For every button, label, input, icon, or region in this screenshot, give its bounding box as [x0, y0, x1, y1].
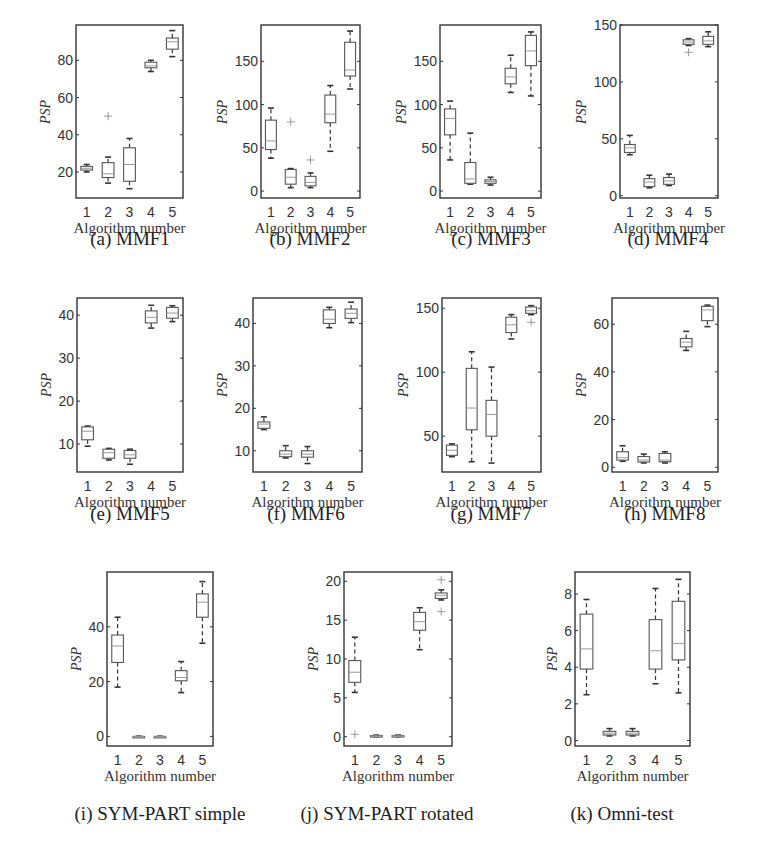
subplot-h: 020406012345	[593, 298, 718, 494]
xtick-label: 3	[156, 752, 164, 768]
xtick-label: 1	[446, 204, 454, 220]
box-algorithm-2	[465, 133, 476, 184]
xtick-label: 4	[147, 204, 155, 220]
xtick-label: 4	[507, 204, 515, 220]
subplot-a: 2040608012345	[57, 25, 183, 220]
box-algorithm-2	[638, 454, 650, 463]
y-axis-label: PSP	[38, 99, 54, 123]
xtick-label: 4	[325, 478, 333, 494]
ytick-label: 100	[416, 364, 440, 380]
y-axis-label: PSP	[39, 373, 55, 397]
box-algorithm-4	[683, 39, 694, 57]
box-algorithm-3	[154, 736, 166, 738]
xtick-label: 2	[287, 204, 295, 220]
xtick-label: 5	[437, 752, 445, 768]
xtick-label: 2	[640, 478, 648, 494]
subplot-k: 0246812345	[564, 572, 690, 768]
iqr-box	[82, 427, 94, 440]
xtick-label: 2	[468, 478, 476, 494]
iqr-box	[445, 109, 456, 135]
xtick-label: 4	[652, 752, 660, 768]
xtick-label: 2	[606, 752, 614, 768]
box-algorithm-4	[325, 86, 336, 152]
xtick-label: 3	[126, 478, 134, 494]
box-algorithm-3	[302, 447, 314, 464]
ytick-label: 40	[593, 364, 609, 380]
y-axis-label: PSP	[574, 99, 590, 123]
box-algorithm-5	[197, 582, 209, 644]
iqr-box	[145, 62, 157, 68]
iqr-box	[265, 120, 276, 149]
subplot-caption: (d) MMF4	[628, 228, 709, 250]
ytick-label: 60	[593, 316, 609, 332]
box-algorithm-4	[506, 315, 517, 339]
iqr-box	[325, 95, 336, 123]
xtick-label: 3	[665, 204, 673, 220]
box-algorithm-4	[414, 608, 426, 650]
subplot-caption: (c) MMF3	[451, 228, 531, 250]
xtick-label: 5	[704, 204, 712, 220]
ytick-label: 10	[58, 436, 74, 452]
box-algorithm-3	[392, 735, 404, 737]
ytick-label: 10	[234, 443, 250, 459]
xtick-label: 2	[135, 752, 143, 768]
subplot-caption: (j) SYM-PART rotated	[300, 803, 473, 825]
xtick-label: 5	[169, 478, 177, 494]
box-algorithm-2	[603, 729, 616, 736]
iqr-box	[323, 310, 335, 324]
ytick-label: 15	[325, 612, 341, 628]
xtick-label: 5	[168, 204, 176, 220]
box-algorithm-3	[664, 174, 675, 185]
ytick-label: 150	[416, 300, 440, 316]
box-algorithm-3	[305, 156, 316, 188]
ytick-label: 5	[333, 690, 341, 706]
box-algorithm-1	[580, 599, 593, 694]
iqr-box	[112, 635, 124, 662]
xtick-label: 2	[282, 478, 290, 494]
ytick-label: 60	[57, 90, 73, 106]
ytick-label: 50	[421, 140, 437, 156]
ytick-label: 150	[414, 53, 438, 69]
xtick-label: 4	[685, 204, 693, 220]
ytick-label: 0	[333, 729, 341, 745]
iqr-box	[465, 163, 476, 184]
ytick-label: 50	[242, 140, 258, 156]
ytick-label: 8	[564, 586, 572, 602]
x-axis-label: Algorithm number	[342, 768, 454, 785]
ytick-label: 6	[564, 623, 572, 639]
xtick-label: 1	[260, 478, 268, 494]
subplot-caption: (k) Omni-test	[571, 803, 674, 825]
xtick-label: 5	[347, 478, 355, 494]
box-algorithm-3	[124, 138, 136, 188]
boxplot-figure: 2040608012345050100150123450501001501234…	[0, 0, 758, 857]
box-algorithm-5	[526, 306, 537, 327]
ytick-label: 20	[57, 164, 73, 180]
xtick-label: 1	[83, 204, 91, 220]
y-axis-label: PSP	[215, 373, 231, 397]
box-algorithm-5	[345, 302, 357, 322]
y-axis-label: PSP	[396, 373, 412, 397]
subplot-caption: (e) MMF5	[90, 503, 170, 525]
iqr-box	[349, 661, 361, 683]
box-algorithm-3	[626, 729, 639, 736]
box-algorithm-5	[166, 31, 178, 57]
box-algorithm-1	[446, 444, 457, 457]
xtick-label: 5	[346, 204, 354, 220]
xtick-label: 1	[619, 478, 627, 494]
box-algorithm-2	[103, 448, 115, 460]
ytick-label: 40	[234, 315, 250, 331]
subplot-caption: (a) MMF1	[90, 228, 170, 250]
ytick-label: 0	[601, 459, 609, 475]
xtick-label: 3	[629, 752, 637, 768]
box-algorithm-2	[644, 175, 655, 188]
xtick-label: 2	[105, 478, 113, 494]
subplot-e: 1020304012345	[58, 298, 183, 494]
iqr-box	[466, 368, 477, 429]
iqr-box	[644, 179, 655, 187]
y-axis-label: PSP	[394, 99, 410, 123]
iqr-box	[702, 306, 714, 320]
box-algorithm-4	[145, 60, 157, 71]
y-axis-label: PSP	[574, 373, 590, 397]
iqr-box	[672, 601, 685, 660]
box-algorithm-4	[145, 305, 157, 328]
